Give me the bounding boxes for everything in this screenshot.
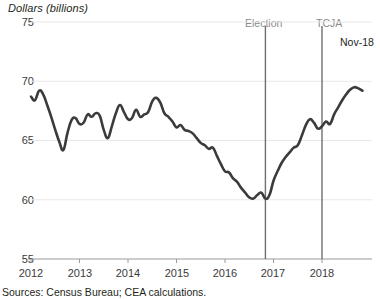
source-note: Sources: Census Bureau; CEA calculations… (2, 286, 206, 298)
chart-plot-area (0, 0, 380, 299)
series-line (31, 87, 362, 199)
chart-container: Dollars (billions) 75 70 65 60 55 2012 2… (0, 0, 380, 299)
